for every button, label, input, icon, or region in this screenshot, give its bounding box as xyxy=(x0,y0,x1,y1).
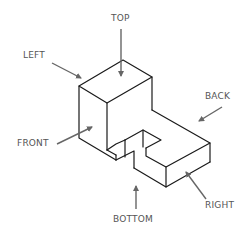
left-arrow-icon xyxy=(52,63,81,78)
label-left: LEFT xyxy=(23,51,45,60)
label-back: BACK xyxy=(205,92,230,101)
label-front: FRONT xyxy=(17,139,49,148)
isometric-object xyxy=(79,60,210,187)
label-right: RIGHT xyxy=(205,201,234,210)
label-bottom: BOTTOM xyxy=(113,215,153,224)
lower-slab-bottom-edges xyxy=(134,162,210,187)
label-top: TOP xyxy=(111,14,130,23)
step-front-top-edge xyxy=(107,150,116,155)
step-ledge-edge xyxy=(107,140,125,150)
front-arrow-icon xyxy=(57,127,92,144)
back-arrow-icon xyxy=(199,107,222,121)
right-arrow-icon xyxy=(186,172,206,199)
lower-slab-top-edges xyxy=(146,110,210,167)
top-block-top-face xyxy=(79,60,152,103)
